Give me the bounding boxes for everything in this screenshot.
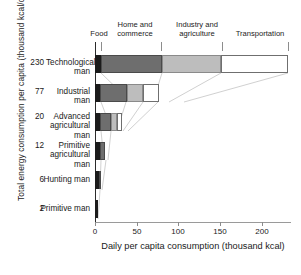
- header-tick-3: [222, 42, 223, 51]
- segment-home-and-commerce: [100, 113, 111, 131]
- energy-consumption-chart: Total energy consumption per capita (tho…: [0, 0, 301, 275]
- header-tick-4: [288, 42, 289, 51]
- x-tick-100: [178, 222, 179, 226]
- header-tick-2: [161, 42, 162, 51]
- segment-transportation: [221, 55, 288, 73]
- row-label-hunting-man: Hunting man: [40, 175, 90, 184]
- row-label-primitive-agricultural-man: Primitive agricultural man: [40, 141, 90, 169]
- header-tick-1: [101, 42, 102, 51]
- x-tick-label-100: 100: [163, 227, 193, 236]
- x-axis-title: Daily per capita consumption (thousand k…: [95, 241, 291, 251]
- segment-home-and-commerce: [99, 171, 101, 189]
- row-label-primitive-man: Primitive man: [40, 204, 90, 213]
- segment-home-and-commerce: [100, 84, 127, 102]
- x-tick-150: [220, 222, 221, 226]
- x-tick-200: [262, 222, 263, 226]
- row-total-industrial-man: 77: [22, 87, 44, 96]
- x-tick-label-0: 0: [80, 227, 110, 236]
- legend-home-and-commerce: Home and commerce: [104, 21, 166, 38]
- segment-transportation: [117, 113, 122, 131]
- x-tick-label-50: 50: [122, 227, 152, 236]
- x-tick-label-200: 200: [247, 227, 277, 236]
- segment-food: [95, 200, 98, 218]
- x-tick-0: [95, 222, 96, 226]
- x-tick-label-150: 150: [205, 227, 235, 236]
- row-label-technological-man: Technological man: [46, 58, 90, 77]
- segment-home-and-commerce: [100, 142, 105, 160]
- legend-industry-and-agriculture: Industry and agriculture: [164, 21, 230, 38]
- segment-home-and-commerce: [101, 55, 162, 73]
- segment-industry-and-agriculture: [127, 84, 143, 102]
- segment-transportation: [143, 84, 159, 102]
- row-label-industrial-man: Industrial man: [46, 87, 90, 106]
- x-tick-50: [137, 222, 138, 226]
- row-label-advanced-agricultural-man: Advanced agricultural man: [40, 112, 90, 140]
- legend-transportation: Transportation: [225, 30, 295, 39]
- segment-industry-and-agriculture: [162, 55, 221, 73]
- row-total-technological-man: 230: [22, 58, 44, 67]
- y-axis-title: Total energy consumption per capita (tho…: [16, 11, 26, 201]
